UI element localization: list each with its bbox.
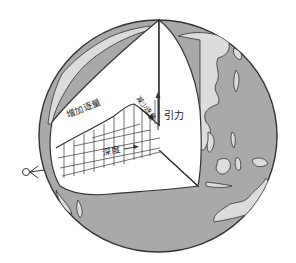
eye-icon [23,166,45,178]
globe-cutaway-diagram: 增加逐量 减少逐量 引力 深度 [0,0,296,263]
label-gravity: 引力 [164,109,184,121]
